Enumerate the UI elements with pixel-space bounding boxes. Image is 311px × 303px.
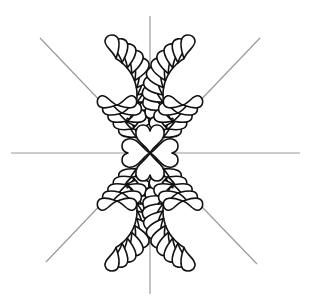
feather-plume	[104, 247, 120, 272]
feather-plume	[163, 95, 184, 108]
feather-plume	[163, 197, 184, 210]
feather-plume	[116, 95, 137, 108]
feather-plume	[104, 34, 120, 59]
feather-plume	[180, 247, 196, 272]
feather-plume	[180, 34, 196, 59]
quilt-design-canvas	[0, 0, 311, 303]
feather-plume	[116, 197, 137, 210]
